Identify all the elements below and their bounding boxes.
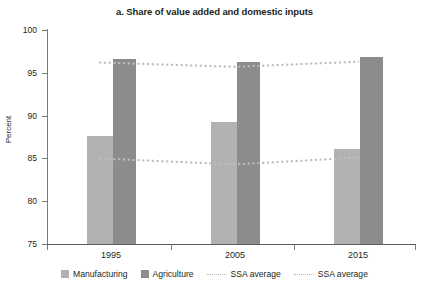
y-tick-label: 85 [28, 153, 37, 163]
legend-item-manufacturing: Manufacturing [61, 269, 127, 279]
y-tick-label: 90 [28, 111, 37, 121]
legend-swatch-icon [61, 270, 69, 278]
y-tick-label: 75 [28, 239, 37, 249]
x-axis-tick [294, 245, 295, 250]
plot-area [47, 30, 416, 244]
x-axis-tick [171, 245, 172, 250]
legend-label: Agriculture [153, 269, 194, 279]
chart-legend: Manufacturing Agriculture SSA average SS… [0, 269, 429, 279]
y-tick-label: 100 [23, 25, 37, 35]
legend-item-agriculture: Agriculture [141, 269, 194, 279]
y-axis-title: Percent [4, 100, 13, 160]
y-tick-label: 95 [28, 68, 37, 78]
legend-swatch-icon [141, 270, 149, 278]
x-axis-tick [415, 245, 416, 250]
x-tick-label-2015: 2015 [348, 250, 368, 260]
chart-container: a. Share of value added and domestic inp… [0, 0, 429, 289]
y-axis-labels: Percent 100 95 90 85 80 75 [0, 0, 42, 289]
ssa-average-lines [47, 30, 416, 244]
legend-label: SSA average [318, 269, 368, 279]
ssa-average-upper-line [99, 62, 359, 67]
ssa-average-lower-line [99, 158, 359, 165]
x-axis-tick [47, 245, 48, 250]
legend-item-ssa-average-upper: SSA average [207, 269, 281, 279]
x-tick-label-1995: 1995 [101, 250, 121, 260]
legend-dashed-line-icon [207, 274, 227, 275]
chart-title: a. Share of value added and domestic inp… [0, 6, 429, 17]
y-tick-label: 80 [28, 196, 37, 206]
legend-label: SSA average [231, 269, 281, 279]
x-axis-line [47, 244, 416, 245]
legend-item-ssa-average-lower: SSA average [294, 269, 368, 279]
x-tick-label-2005: 2005 [225, 250, 245, 260]
legend-dashed-line-icon [294, 274, 314, 275]
legend-label: Manufacturing [73, 269, 127, 279]
